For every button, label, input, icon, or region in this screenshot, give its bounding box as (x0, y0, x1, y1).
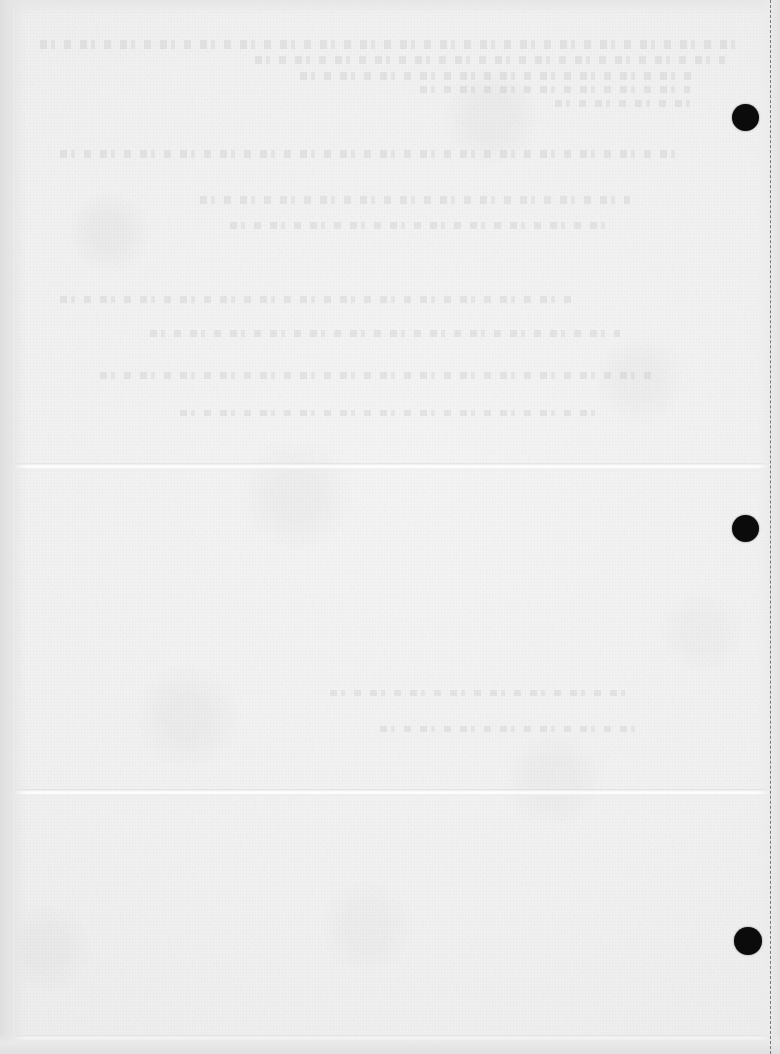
ghost-text-band-7 (200, 196, 630, 204)
ghost-text-band-13 (330, 690, 630, 696)
ghost-text-band-12 (180, 410, 600, 416)
ghost-text-band-10 (150, 330, 620, 337)
ghost-text-band-11 (100, 372, 660, 379)
registration-dot-bottom (734, 927, 762, 955)
registration-dot-top (732, 104, 759, 131)
crease-upper (0, 463, 780, 470)
page-edge-shadow-right (758, 0, 780, 1054)
ghost-text-band-2 (255, 56, 725, 64)
ghost-text-band-9 (60, 296, 580, 303)
ghost-text-band-8 (230, 222, 610, 229)
scanned-page (0, 0, 780, 1054)
page-edge-shadow-bottom (0, 1034, 780, 1054)
ghost-text-band-3 (300, 72, 700, 80)
dashed-right-guide (770, 0, 771, 1054)
crease-lower (0, 789, 780, 796)
ghost-text-band-5 (555, 100, 695, 107)
ghost-text-band-4 (420, 86, 690, 93)
page-edge-shadow-left (0, 0, 26, 1054)
registration-dot-middle (732, 515, 759, 542)
ghost-text-band-14 (380, 726, 640, 732)
ghost-text-band-1 (40, 40, 740, 49)
ghost-text-band-6 (60, 150, 680, 158)
paper-grain-texture (0, 0, 780, 1054)
page-edge-shadow-top (0, 0, 780, 14)
